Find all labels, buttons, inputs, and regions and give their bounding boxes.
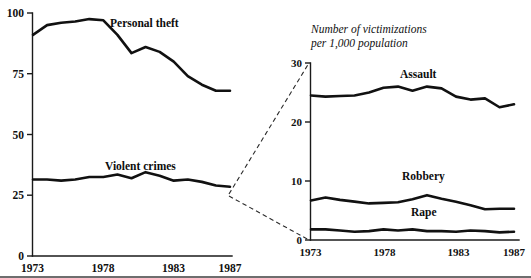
right-ytick-label-30: 30 (291, 57, 303, 69)
right-ytick-label-20: 20 (291, 116, 303, 128)
left-xtick-label-1983: 1983 (162, 262, 185, 274)
series-label-rape: Rape (411, 206, 437, 219)
series-line-violent-crimes (33, 172, 230, 187)
left-xtick-label-1978: 1978 (92, 262, 115, 274)
right-ytick-label-10: 10 (291, 175, 303, 187)
series-label-personal-theft: Personal theft (110, 17, 179, 29)
left-xtick-label-1987: 1987 (219, 262, 242, 274)
right-panel: Number of victimizations per 1,000 popul… (291, 23, 526, 258)
right-xtick-label-1978: 1978 (374, 246, 397, 258)
right-xtick-label-1973: 1973 (300, 246, 323, 258)
victimization-rates-chart: 100 75 50 25 0 1973 1978 1983 1987 Perso… (0, 0, 531, 278)
callout-connector (229, 63, 309, 240)
series-line-assault (311, 87, 514, 108)
series-label-assault: Assault (400, 68, 437, 80)
left-ytick-label-75: 75 (13, 68, 25, 80)
right-xtick-label-1987: 1987 (503, 246, 526, 258)
right-ytick-label-0: 0 (297, 234, 303, 246)
right-xtick-label-1983: 1983 (448, 246, 471, 258)
chart-figure: 100 75 50 25 0 1973 1978 1983 1987 Perso… (0, 0, 531, 278)
left-panel: 100 75 50 25 0 1973 1978 1983 1987 Perso… (7, 7, 242, 274)
series-label-robbery: Robbery (402, 170, 445, 183)
left-ytick-label-25: 25 (13, 189, 25, 201)
series-line-personal-theft (33, 19, 230, 91)
left-xtick-label-1973: 1973 (21, 262, 44, 274)
left-ytick-label-0: 0 (18, 250, 24, 262)
right-panel-title-line2: per 1,000 population (310, 37, 408, 50)
series-line-rape (311, 229, 514, 232)
left-ytick-label-100: 100 (7, 7, 25, 19)
series-label-violent-crimes: Violent crimes (105, 160, 176, 172)
right-panel-title-line1: Number of victimizations (310, 23, 427, 36)
left-ytick-label-50: 50 (13, 129, 25, 141)
